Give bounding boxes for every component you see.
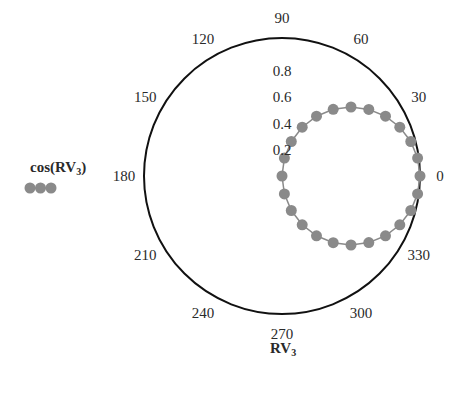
legend-marker-icon	[46, 183, 57, 194]
legend-label: cos(RV3)	[30, 159, 86, 177]
angle-tick-label: 60	[354, 31, 369, 47]
radial-tick-label: 0.4	[273, 116, 292, 132]
data-point-marker	[277, 171, 288, 182]
data-point-marker	[328, 104, 339, 115]
polar-chart: 0306090120150180210240270300330 0.20.40.…	[0, 0, 470, 397]
data-point-marker	[311, 111, 322, 122]
radial-tick-label: 0.6	[273, 89, 292, 105]
data-point-marker	[380, 111, 391, 122]
data-point-marker	[328, 237, 339, 248]
angle-tick-label: 210	[134, 247, 157, 263]
data-point-marker	[394, 219, 405, 230]
angle-tick-label: 300	[350, 305, 373, 321]
legend-marker-icon	[25, 183, 36, 194]
data-point-marker	[346, 102, 357, 113]
angle-tick-label: 90	[275, 10, 290, 26]
angle-tick-label: 120	[192, 31, 215, 47]
data-point-marker	[297, 122, 308, 133]
data-point-marker	[311, 230, 322, 241]
angle-tick-label: 150	[134, 89, 157, 105]
legend: cos(RV3)	[25, 159, 87, 194]
data-point-marker	[363, 237, 374, 248]
data-point-marker	[297, 219, 308, 230]
data-point-marker	[286, 205, 297, 216]
angle-tick-label: 180	[113, 168, 136, 184]
data-point-marker	[412, 188, 423, 199]
series-cos-rv3	[277, 102, 426, 251]
data-point-marker	[346, 240, 357, 251]
radial-tick-labels: 0.20.40.60.8	[273, 63, 292, 158]
data-point-marker	[415, 171, 426, 182]
legend-marker-icon	[35, 183, 46, 194]
data-point-marker	[412, 153, 423, 164]
angle-tick-label: 0	[436, 168, 444, 184]
x-axis-label: RV3	[270, 340, 296, 358]
angle-tick-label: 330	[408, 247, 431, 263]
data-point-marker	[380, 230, 391, 241]
angle-tick-label: 240	[192, 305, 215, 321]
angle-tick-label: 30	[411, 89, 426, 105]
data-point-marker	[279, 188, 290, 199]
data-point-marker	[405, 205, 416, 216]
radial-tick-label: 0.8	[273, 63, 292, 79]
data-point-marker	[363, 104, 374, 115]
data-point-marker	[394, 122, 405, 133]
data-point-marker	[405, 136, 416, 147]
radial-tick-label: 0.2	[273, 142, 292, 158]
